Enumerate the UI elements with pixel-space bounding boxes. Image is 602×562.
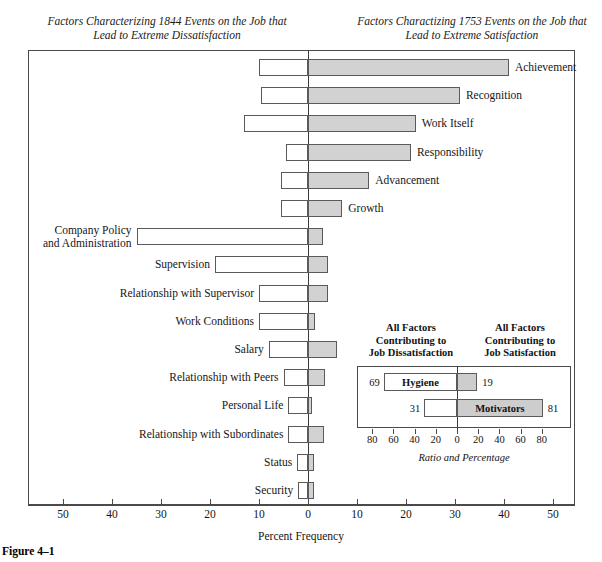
- bar-row: Work Itself: [29, 115, 574, 132]
- x-axis-tick: [161, 499, 162, 505]
- bar-label: Relationship with Subordinates: [29, 426, 283, 443]
- bar-label: Relationship with Peers: [29, 369, 279, 386]
- bar-row: Recognition: [29, 87, 574, 104]
- bar-row: Achievement: [29, 59, 574, 76]
- bar-row: Relationship with Supervisor: [29, 285, 574, 302]
- bar-dissatisfaction: [297, 454, 308, 471]
- bar-dissatisfaction: [259, 313, 308, 330]
- x-axis-tick-label: 40: [489, 508, 519, 520]
- inset-heading-dissatisfaction: All Factors Contributing to Job Dissatis…: [359, 322, 463, 360]
- inset-x-axis-title: Ratio and Percentage: [357, 452, 571, 463]
- bar-label: Work Itself: [422, 115, 602, 132]
- bar-dissatisfaction: [298, 482, 308, 499]
- inset-plot-area: Hygiene6919Motivators3181: [357, 366, 571, 428]
- bar-label: Growth: [348, 200, 548, 217]
- bar-label: Salary: [29, 341, 264, 358]
- x-axis-tick: [112, 499, 113, 505]
- x-axis-tick: [357, 499, 358, 505]
- x-axis-tick-label: 20: [391, 508, 421, 520]
- x-axis-tick: [259, 499, 260, 505]
- x-axis-tick: [553, 499, 554, 505]
- heading-dissatisfaction: Factors Characterizing 1844 Events on th…: [42, 14, 292, 42]
- x-axis-tick-label: 10: [244, 508, 274, 520]
- bar-label: Company Policy and Administration: [29, 228, 132, 245]
- x-axis-tick-label: 10: [342, 508, 372, 520]
- bar-dissatisfaction: [284, 369, 309, 386]
- bar-satisfaction: [308, 172, 369, 189]
- bar-dissatisfaction: [286, 144, 308, 161]
- bar-row: Supervision: [29, 256, 574, 273]
- bar-dissatisfaction: [288, 426, 308, 443]
- bar-dissatisfaction: [269, 341, 308, 358]
- inset-panel: All Factors Contributing to Job Dissatis…: [357, 322, 573, 470]
- bar-satisfaction: [308, 369, 325, 386]
- inset-bar-satisfaction: [457, 373, 477, 391]
- bar-row: Security: [29, 482, 574, 499]
- x-axis-tick-label: 30: [440, 508, 470, 520]
- x-axis-tick-label: 50: [538, 508, 568, 520]
- bar-dissatisfaction: [244, 115, 308, 132]
- x-axis-line: [28, 505, 575, 506]
- inset-value-right: 81: [548, 399, 570, 417]
- bar-dissatisfaction: [259, 59, 308, 76]
- bar-dissatisfaction: [281, 200, 308, 217]
- bar-label: Responsibility: [417, 144, 602, 161]
- bar-dissatisfaction: [137, 228, 309, 245]
- bar-label: Achievement: [515, 59, 602, 76]
- bar-label: Advancement: [375, 172, 575, 189]
- x-axis-tick: [455, 499, 456, 505]
- bar-row: Growth: [29, 200, 574, 217]
- x-axis-tick-label: 20: [195, 508, 225, 520]
- bar-dissatisfaction: [215, 256, 308, 273]
- bar-label: Relationship with Supervisor: [29, 285, 254, 302]
- bar-satisfaction: [308, 59, 509, 76]
- heading-satisfaction: Factors Charactizing 1753 Events on the …: [350, 14, 594, 42]
- bar-satisfaction: [308, 426, 324, 443]
- x-axis-tick-label: 30: [146, 508, 176, 520]
- x-axis-tick: [308, 499, 309, 505]
- inset-x-axis-tick-label: 80: [530, 434, 554, 445]
- bar-label: Supervision: [29, 256, 210, 273]
- bar-satisfaction: [308, 313, 315, 330]
- bar-satisfaction: [308, 285, 328, 302]
- x-axis-tick: [210, 499, 211, 505]
- bar-satisfaction: [308, 228, 323, 245]
- bar-label: Personal Life: [29, 397, 283, 414]
- bar-satisfaction: [308, 256, 328, 273]
- bar-label: Recognition: [466, 87, 602, 104]
- bar-row: Responsibility: [29, 144, 574, 161]
- bar-label: Security: [29, 482, 293, 499]
- inset-value-left: 31: [400, 399, 420, 417]
- x-axis-tick-label: 50: [48, 508, 78, 520]
- bar-satisfaction: [308, 115, 416, 132]
- bar-satisfaction: [308, 482, 314, 499]
- bar-dissatisfaction: [259, 285, 308, 302]
- x-axis-tick: [406, 499, 407, 505]
- bar-label: Status: [29, 454, 292, 471]
- inset-value-right: 19: [482, 373, 504, 391]
- inset-heading-satisfaction: All Factors Contributing to Job Satisfac…: [469, 322, 571, 360]
- bar-row: Company Policy and Administration: [29, 228, 574, 245]
- bar-satisfaction: [308, 200, 342, 217]
- inset-bar-label: Hygiene: [384, 373, 457, 391]
- x-axis-tick-label: 40: [97, 508, 127, 520]
- bar-dissatisfaction: [288, 397, 308, 414]
- bar-satisfaction: [308, 454, 314, 471]
- bar-satisfaction: [308, 87, 460, 104]
- bar-label: Work Conditions: [29, 313, 254, 330]
- inset-bar-row: Hygiene6919: [358, 373, 570, 391]
- x-axis-tick-label: 0: [293, 508, 323, 520]
- bar-satisfaction: [308, 144, 411, 161]
- x-axis-tick: [63, 499, 64, 505]
- inset-bar-row: Motivators3181: [358, 399, 570, 417]
- x-axis-tick: [504, 499, 505, 505]
- inset-bar-label: Motivators: [457, 399, 543, 417]
- bar-dissatisfaction: [281, 172, 308, 189]
- inset-value-left: 69: [360, 373, 380, 391]
- bar-row: Advancement: [29, 172, 574, 189]
- bar-dissatisfaction: [261, 87, 308, 104]
- bar-satisfaction: [308, 341, 337, 358]
- inset-bar-dissatisfaction: [424, 399, 457, 417]
- figure-caption: Figure 4–1: [2, 545, 55, 557]
- x-axis-title: Percent Frequency: [0, 530, 602, 542]
